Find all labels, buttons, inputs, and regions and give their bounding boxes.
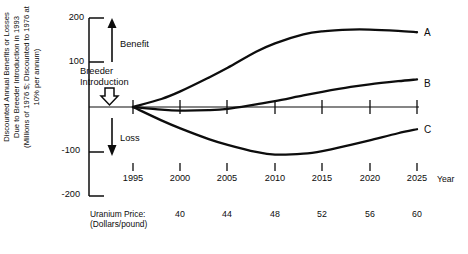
x-tick-marks-lower <box>133 163 417 171</box>
plot-area <box>0 0 468 254</box>
series-curve-a <box>133 29 417 107</box>
loss-arrow-icon <box>108 118 117 156</box>
breeder-introduction-arrow-icon <box>101 88 118 105</box>
series-curve-c <box>133 107 417 155</box>
chart-figure: Discounted Annual Benefits or Losses Due… <box>0 0 468 254</box>
benefit-arrow-icon <box>108 18 117 62</box>
